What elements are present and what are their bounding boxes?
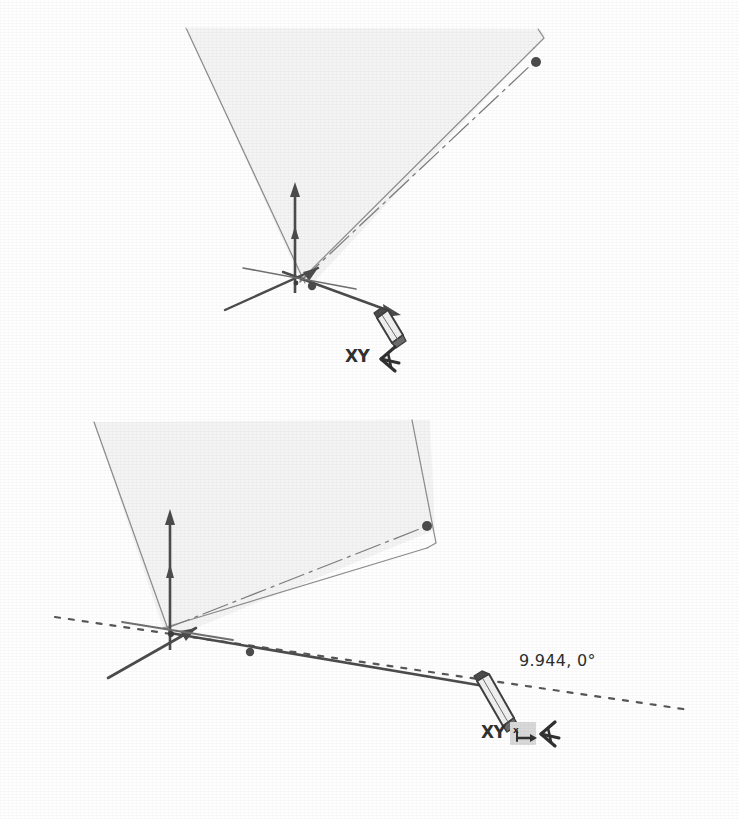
protractor-icon bbox=[381, 347, 399, 371]
axis-origin bbox=[294, 281, 299, 286]
figure-bottom: x XY 9.944, 0° bbox=[0, 400, 739, 819]
xy-mode-label: XY bbox=[345, 346, 369, 366]
xy-mode-label: XY bbox=[481, 722, 505, 742]
midpoint-dot bbox=[308, 282, 316, 290]
shaded-face bbox=[94, 420, 435, 636]
axis-origin bbox=[168, 631, 174, 637]
endpoint-dot bbox=[531, 57, 541, 67]
endpoint-dot bbox=[422, 521, 432, 531]
x-arrow-constraint-icon: x bbox=[510, 722, 537, 745]
figure-bottom-canvas: x bbox=[0, 400, 739, 819]
green-axis-arrow bbox=[225, 268, 318, 310]
figure-top-canvas bbox=[0, 0, 739, 400]
measurement-readout: 9.944, 0° bbox=[519, 651, 596, 670]
midpoint-dot bbox=[246, 648, 254, 656]
figure-top: XY bbox=[0, 0, 739, 400]
protractor-icon bbox=[541, 722, 559, 746]
protractor-drag-line bbox=[170, 633, 490, 687]
figure-sheet: XY bbox=[0, 0, 739, 819]
shaded-face bbox=[186, 28, 545, 284]
pencil-cursor[interactable] bbox=[374, 308, 406, 348]
